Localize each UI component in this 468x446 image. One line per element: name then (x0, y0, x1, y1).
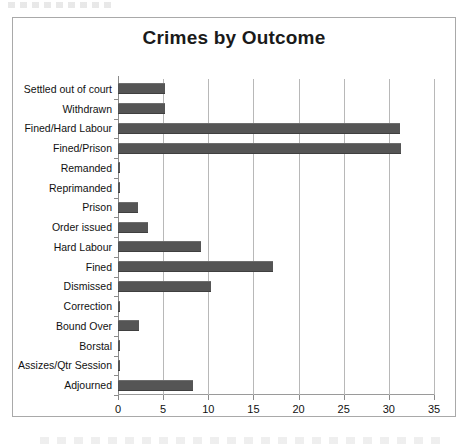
bar[interactable] (118, 162, 120, 173)
bar-row[interactable]: Hard Labour (118, 237, 434, 257)
bar[interactable] (118, 202, 138, 213)
xtick-label-0: 0 (115, 403, 121, 415)
category-label: Order issued (52, 222, 112, 233)
xtick-mark-5 (163, 395, 164, 400)
category-label: Fined/Prison (53, 143, 112, 154)
xtick-mark-15 (253, 395, 254, 400)
category-label: Prison (82, 202, 112, 213)
xtick-label-20: 20 (292, 403, 304, 415)
bar[interactable] (118, 241, 201, 252)
category-label: Dismissed (64, 281, 112, 292)
xtick-label-35: 35 (428, 403, 440, 415)
bar[interactable] (118, 143, 401, 154)
bar-row[interactable]: Fined (118, 257, 434, 277)
category-label: Fined/Hard Labour (24, 123, 112, 134)
xtick-label-30: 30 (383, 403, 395, 415)
xtick-label-5: 5 (160, 403, 166, 415)
plot-area: Settled out of courtWithdrawnFined/Hard … (118, 79, 434, 395)
bar-row[interactable]: Adjourned (118, 375, 434, 395)
bar-row[interactable]: Remanded (118, 158, 434, 178)
x-axis-ticks: 05101520253035 (118, 395, 434, 421)
bar[interactable] (118, 261, 273, 272)
bar[interactable] (118, 301, 120, 312)
category-label: Hard Labour (54, 242, 112, 253)
xtick-label-10: 10 (202, 403, 214, 415)
bar-row[interactable]: Bound Over (118, 316, 434, 336)
bar-row[interactable]: Fined/Prison (118, 138, 434, 158)
category-label: Withdrawn (62, 103, 112, 114)
bar-row[interactable]: Dismissed (118, 277, 434, 297)
category-label: Fined (86, 261, 112, 272)
scan-artifact-top (8, 2, 116, 8)
scan-artifact-bottom (40, 437, 440, 444)
bar[interactable] (118, 340, 120, 351)
category-label: Bound Over (56, 321, 112, 332)
chart-frame: Crimes by Outcome Settled out of courtWi… (12, 17, 456, 417)
gridline-35 (434, 79, 435, 395)
bar[interactable] (118, 320, 139, 331)
category-label: Reprimanded (49, 182, 112, 193)
xtick-mark-30 (389, 395, 390, 400)
bar-rows: Settled out of courtWithdrawnFined/Hard … (118, 79, 434, 395)
bar[interactable] (118, 281, 211, 292)
xtick-mark-20 (299, 395, 300, 400)
bar-row[interactable]: Prison (118, 198, 434, 218)
category-label: Correction (64, 301, 112, 312)
xtick-mark-10 (208, 395, 209, 400)
category-label: Remanded (61, 163, 112, 174)
chart-title: Crimes by Outcome (13, 27, 455, 49)
bar[interactable] (118, 103, 165, 114)
xtick-mark-0 (118, 395, 119, 400)
bar-row[interactable]: Reprimanded (118, 178, 434, 198)
xtick-label-25: 25 (338, 403, 350, 415)
bar-row[interactable]: Assizes/Qtr Session (118, 356, 434, 376)
bar-row[interactable]: Borstal (118, 336, 434, 356)
bar[interactable] (118, 182, 120, 193)
xtick-label-15: 15 (247, 403, 259, 415)
category-label: Adjourned (64, 380, 112, 391)
bar-row[interactable]: Fined/Hard Labour (118, 119, 434, 139)
bar-row[interactable]: Order issued (118, 217, 434, 237)
bar[interactable] (118, 83, 165, 94)
category-label: Assizes/Qtr Session (18, 360, 112, 371)
bar-row[interactable]: Correction (118, 296, 434, 316)
category-label: Borstal (79, 340, 112, 351)
bar[interactable] (118, 360, 120, 371)
xtick-mark-35 (434, 395, 435, 400)
bar-row[interactable]: Settled out of court (118, 79, 434, 99)
bar-row[interactable]: Withdrawn (118, 99, 434, 119)
xtick-mark-25 (344, 395, 345, 400)
category-label: Settled out of court (24, 84, 112, 95)
bar[interactable] (118, 123, 400, 134)
bar[interactable] (118, 222, 148, 233)
bar[interactable] (118, 380, 193, 391)
